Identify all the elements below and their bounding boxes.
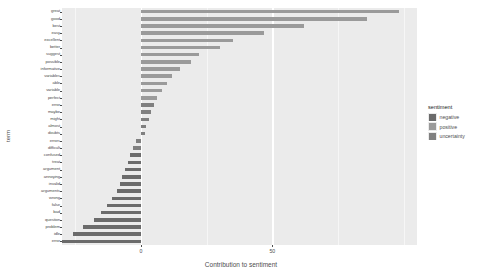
y-tick-mark [60,234,62,235]
bar [125,168,141,172]
y-tick-label: informative [41,67,60,71]
y-tick-mark [60,98,62,99]
bar [141,53,199,57]
y-tick-mark [60,213,62,214]
bar [136,139,141,143]
y-tick-mark [60,206,62,207]
y-tick-label: maybe [48,110,60,114]
y-tick-mark [60,26,62,27]
bar [133,146,141,150]
y-tick-label: possible [45,60,60,64]
legend-title: sentiment [428,104,465,110]
y-tick-label: error [52,239,60,243]
y-tick-mark [60,119,62,120]
y-tick-label: error [52,103,60,107]
y-tick-mark [60,198,62,199]
y-tick-label: arguments [41,189,60,193]
y-tick-label: better [50,45,60,49]
y-tick-label: annoying [44,175,60,179]
y-tick-mark [60,19,62,20]
y-tick-mark [60,141,62,142]
bar [141,125,146,129]
legend-key [428,113,437,122]
y-tick-mark [60,162,62,163]
bar [141,132,145,136]
y-tick-label: excellent [44,38,60,42]
y-tick-mark [60,83,62,84]
legend-swatch [429,133,436,140]
bar [141,17,367,21]
y-tick-label: false [52,203,60,207]
y-tick-mark [60,191,62,192]
y-tick-label: able [52,81,60,85]
legend-entries: negativepositiveuncertainty [428,113,465,141]
x-tick-label: 50 [269,248,275,254]
y-tick-label: great [51,9,60,13]
x-tick-label: 0 [139,248,142,254]
y-tick-mark [60,112,62,113]
bar [141,118,149,122]
legend-entry: positive [428,122,465,131]
bar [141,24,304,28]
bar [107,204,141,208]
legend-entry: negative [428,113,465,122]
y-tick-mark [60,155,62,156]
y-tick-label: best [52,24,60,28]
bar [141,96,157,100]
y-tick-mark [60,91,62,92]
legend-label: positive [440,124,458,130]
legend-swatch [429,114,436,121]
bar [141,10,399,14]
bar [141,103,154,107]
y-tick-label: invalid [49,182,60,186]
x-tick-mark [141,245,142,247]
bar [141,60,191,64]
y-tick-mark [60,62,62,63]
y-tick-label: doubts [48,131,60,135]
y-tick-label: confused [44,153,60,157]
bar [112,197,141,201]
y-tick-label: good [51,17,60,21]
y-tick-mark [60,241,62,242]
y-tick-label: difficult [48,146,60,150]
bar [62,240,141,244]
y-tick-mark [60,55,62,56]
bar [83,225,141,229]
bar [141,31,265,35]
legend: sentiment negativepositiveuncertainty [428,104,465,141]
legend-entry: uncertainty [428,132,465,141]
bar [94,218,141,222]
bar [120,182,141,186]
y-tick-mark [60,220,62,221]
bar [130,153,141,157]
y-tick-label: might [50,117,60,121]
y-tick-label: treat [52,160,60,164]
y-tick-mark [60,134,62,135]
plot-panel [62,8,417,245]
y-tick-mark [60,170,62,171]
x-axis-title: Contribution to sentiment [0,261,482,268]
legend-key [428,122,437,131]
y-tick-label: question [45,218,60,222]
y-tick-mark [60,227,62,228]
bar [141,74,173,78]
bar [141,67,180,71]
gridline-minor [338,8,339,245]
bar [122,175,140,179]
bar [73,232,141,236]
gridline-minor [75,8,76,245]
y-axis-title: term [5,130,11,142]
y-tick-label: bad [53,210,60,214]
sentiment-contribution-chart: term greatgoodbesteasyexcellentbettersug… [0,0,482,271]
gridline-minor [404,8,405,245]
bar [128,161,141,165]
y-tick-label: errors [50,139,60,143]
y-tick-mark [60,48,62,49]
y-tick-mark [60,177,62,178]
y-tick-label: perfect [48,96,60,100]
y-tick-mark [60,40,62,41]
x-tick-mark [272,245,273,247]
y-tick-mark [60,76,62,77]
y-tick-label: easy [52,31,60,35]
y-tick-label: wrong [49,196,60,200]
